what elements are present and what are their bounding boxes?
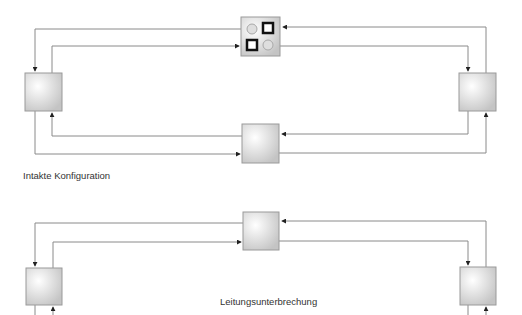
middle-node [243,212,279,250]
left-node [26,268,62,305]
connection-line [52,46,239,73]
ring-diagram [0,0,522,315]
middle-node [242,124,279,163]
open-port-icon [263,40,273,50]
right-node [460,267,496,305]
connection-line [52,113,242,136]
intact-configuration-label: Intakte Konfiguration [23,170,110,181]
open-port-icon [247,24,257,34]
connection-line [282,221,486,267]
connection-line [280,46,468,71]
connection-line [279,113,486,153]
connection-line [35,111,240,154]
intact-configuration [25,17,496,163]
connection-line [282,111,468,134]
right-node [459,73,496,111]
connection-line [283,27,486,73]
switch-node [241,17,280,56]
interruption-label: Leitungsunterbrechung [220,296,317,307]
closed-port-icon [263,23,273,33]
left-node [25,73,62,111]
connection-line [53,242,241,268]
closed-port-icon [247,40,257,50]
connection-line [35,223,243,266]
connection-line [279,241,468,265]
connection-line [35,29,241,71]
